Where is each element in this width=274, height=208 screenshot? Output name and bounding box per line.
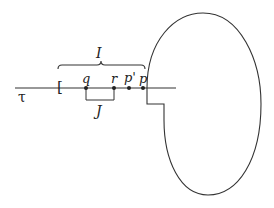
point-r	[112, 86, 116, 90]
label-I: I	[96, 46, 102, 60]
point-p	[141, 86, 145, 90]
label-tau: τ	[18, 90, 26, 104]
bracket-J	[86, 89, 114, 100]
label-q: q	[82, 72, 90, 85]
oval-region	[147, 13, 261, 195]
label-J: J	[96, 104, 102, 118]
label-r: r	[111, 72, 117, 85]
label-p-prime: p'	[124, 71, 136, 84]
label-p: p	[139, 72, 147, 85]
brace-I	[58, 61, 145, 69]
point-q	[84, 86, 88, 90]
bracket-open: [	[57, 80, 63, 95]
point-p-prime	[127, 86, 131, 90]
diagram-canvas	[0, 0, 274, 208]
